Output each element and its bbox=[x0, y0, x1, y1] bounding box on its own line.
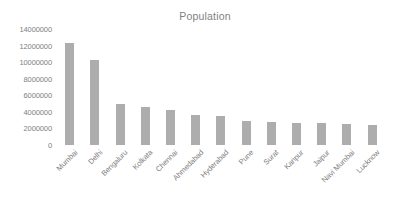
plot-area bbox=[57, 29, 402, 145]
x-axis-tick-label-text: Mumbai bbox=[54, 148, 79, 173]
bar[interactable] bbox=[242, 121, 251, 145]
x-axis-tick-label-text: Jaipur bbox=[311, 148, 331, 168]
x-axis-tick-label-text: Kanpur bbox=[283, 148, 306, 171]
population-bar-chart: Population 02000000400000060000008000000… bbox=[0, 0, 410, 202]
x-axis-tick-label-text: Bengaluru bbox=[99, 148, 129, 178]
y-axis-tick-label: 12000000 bbox=[0, 41, 52, 50]
bar[interactable] bbox=[292, 123, 301, 145]
bar[interactable] bbox=[342, 124, 351, 145]
bar[interactable] bbox=[191, 115, 200, 145]
bar[interactable] bbox=[216, 116, 225, 145]
bar[interactable] bbox=[166, 110, 175, 145]
bar[interactable] bbox=[65, 43, 74, 145]
bar[interactable] bbox=[141, 107, 150, 145]
x-axis-tick-label-text: Navi Mumbai bbox=[320, 148, 357, 185]
y-axis-tick-label: 6000000 bbox=[0, 91, 52, 100]
x-axis-tick-label-text: Lucknow bbox=[355, 148, 382, 175]
x-axis-tick-label-text: Hyderabad bbox=[198, 148, 230, 180]
y-axis: 0200000040000006000000800000010000000120… bbox=[0, 0, 55, 202]
x-axis-tick-label-text: Ahmedabad bbox=[171, 148, 205, 182]
bar[interactable] bbox=[317, 123, 326, 145]
x-axis-tick-label-text: Surat bbox=[262, 148, 281, 167]
y-axis-tick-label: 14000000 bbox=[0, 25, 52, 34]
y-axis-tick-label: 2000000 bbox=[0, 124, 52, 133]
chart-title: Population bbox=[0, 10, 410, 22]
y-axis-tick-label: 4000000 bbox=[0, 107, 52, 116]
bar[interactable] bbox=[116, 104, 125, 145]
y-axis-tick-label: 10000000 bbox=[0, 58, 52, 67]
bar[interactable] bbox=[90, 60, 99, 145]
x-axis-tick-label-text: Delhi bbox=[86, 148, 104, 166]
bar[interactable] bbox=[267, 122, 276, 145]
bar[interactable] bbox=[368, 125, 377, 145]
x-axis-tick-label-text: Chennai bbox=[154, 148, 180, 174]
x-axis-tick-label-text: Pune bbox=[237, 148, 255, 166]
x-axis-tick-label-text: Kolkata bbox=[131, 148, 155, 172]
y-axis-tick-label: 8000000 bbox=[0, 74, 52, 83]
y-axis-tick-label: 0 bbox=[0, 141, 52, 150]
